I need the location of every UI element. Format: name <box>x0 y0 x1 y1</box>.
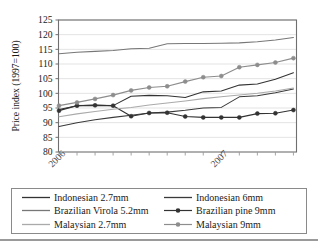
svg-text:125: 125 <box>38 14 53 25</box>
svg-text:90: 90 <box>43 117 53 128</box>
legend-line-icon <box>163 192 193 203</box>
footer-divider <box>0 239 318 241</box>
plot-frame <box>56 20 297 156</box>
legend-line-marker-icon <box>163 205 193 216</box>
legend-entry[interactable]: Brazilian pine 9mm <box>154 204 306 217</box>
svg-text:105: 105 <box>38 73 53 84</box>
legend-line-icon <box>21 219 51 230</box>
svg-text:110: 110 <box>38 58 52 69</box>
legend-entry[interactable]: Indonesian 2.7mm <box>12 191 154 204</box>
svg-text:2007: 2007 <box>208 148 229 169</box>
legend-line-icon <box>21 205 51 216</box>
legend-entry-label: Brazilian pine 9mm <box>196 205 275 216</box>
legend-line-marker-icon <box>163 219 193 230</box>
y-axis-tick-labels: 80859095100105110115120125 <box>38 14 53 157</box>
svg-text:85: 85 <box>43 132 53 143</box>
legend-entry-label: Malaysian 2.7mm <box>54 219 126 230</box>
legend-entry-label: Indonesian 2.7mm <box>54 192 128 203</box>
svg-text:Price index (1997=100): Price index (1997=100) <box>10 40 22 131</box>
chart-legend: Indonesian 2.7mmIndonesian 6mmBrazilian … <box>11 188 307 234</box>
x-axis-tick-labels: 20062007 <box>46 148 230 169</box>
svg-text:100: 100 <box>38 88 53 99</box>
svg-text:120: 120 <box>38 29 53 40</box>
legend-line-icon <box>21 192 51 203</box>
legend-entry-label: Indonesian 6mm <box>196 192 263 203</box>
y-axis-title: Price index (1997=100) <box>10 40 22 131</box>
legend-entry-label: Brazilian Virola 5.2mm <box>54 205 148 216</box>
svg-text:115: 115 <box>38 44 52 55</box>
figure-container: 80859095100105110115120125 20062007 Pric… <box>0 0 318 242</box>
legend-entry[interactable]: Brazilian Virola 5.2mm <box>12 204 154 217</box>
legend-grid: Indonesian 2.7mmIndonesian 6mmBrazilian … <box>12 189 306 233</box>
series-brazilian-virola-5-2mm <box>59 38 293 54</box>
data-series <box>57 38 295 127</box>
legend-entry[interactable]: Malaysian 2.7mm <box>12 218 154 231</box>
legend-entry-label: Malaysian 9mm <box>196 219 261 230</box>
legend-entry[interactable]: Malaysian 9mm <box>154 218 306 231</box>
legend-entry[interactable]: Indonesian 6mm <box>154 191 306 204</box>
svg-text:95: 95 <box>43 102 53 113</box>
